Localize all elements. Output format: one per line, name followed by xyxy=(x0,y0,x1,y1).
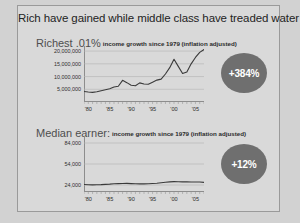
plot-canvas-richest xyxy=(84,46,204,105)
chart-panel-richest: Richest .01%income growth since 1979 (in… xyxy=(18,33,281,113)
slide-container: Rich have gained while middle class have… xyxy=(17,5,280,212)
y-tick-label: 84,000 xyxy=(65,140,82,146)
x-tick-label: '05 xyxy=(192,106,199,112)
x-tick-label: '80 xyxy=(85,106,92,112)
x-tick-label: '05 xyxy=(192,196,199,202)
x-tick-label: '90 xyxy=(127,196,134,202)
x-tick-label: '95 xyxy=(149,106,156,112)
page-title: Rich have gained while middle class have… xyxy=(18,12,279,24)
x-tick-label: '90 xyxy=(127,106,134,112)
x-tick-label: '85 xyxy=(106,106,113,112)
x-tick-label: '00 xyxy=(170,196,177,202)
chart-panel-median: Median earner:income growth since 1979 (… xyxy=(18,123,281,203)
x-tick-label: '95 xyxy=(149,196,156,202)
y-tick-label: 5,000,000 xyxy=(57,86,81,92)
y-tick-label: 54,000 xyxy=(65,161,82,167)
y-tick-label: 24,000 xyxy=(65,182,82,188)
y-tick-label: 15,000,000 xyxy=(54,61,81,67)
line-chart-richest: 5,000,00010,000,00015,000,00020,000,000 … xyxy=(84,46,204,102)
growth-badge-richest: +384% xyxy=(221,53,267,93)
x-tick-label: '85 xyxy=(106,196,113,202)
y-tick-label: 20,000,000 xyxy=(54,48,81,54)
x-tick-label: '00 xyxy=(170,106,177,112)
growth-badge-median: +12% xyxy=(221,144,267,184)
line-chart-median: 24,00054,00084,000 '80'85'90'95'00'05 xyxy=(84,136,204,192)
x-tick-label: '80 xyxy=(85,196,92,202)
y-tick-label: 10,000,000 xyxy=(54,74,81,80)
plot-canvas-median xyxy=(84,136,204,195)
